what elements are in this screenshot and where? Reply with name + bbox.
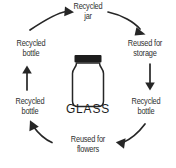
node-label-recycled-jar: Recycled jar bbox=[61, 2, 115, 21]
center-label-glass: GLASS bbox=[55, 101, 121, 116]
node-label-reused-for-flowers: Reused for flowers bbox=[59, 135, 117, 154]
node-label-recycled-bottle-right: Recycled bottle bbox=[121, 97, 171, 116]
node-label-recycled-bottle-top-left: Recycled bottle bbox=[5, 39, 57, 58]
arrow-bottom-left-icon bbox=[29, 120, 52, 142]
arrow-bottom-right-icon bbox=[116, 124, 145, 149]
node-label-recycled-bottle-left: Recycled bottle bbox=[5, 97, 55, 116]
node-label-reused-for-storage: Reused for storage bbox=[119, 39, 171, 58]
glass-recycling-diagram: Recycled jar Reused for storage Recycled… bbox=[0, 0, 176, 168]
arrow-right-icon bbox=[145, 64, 155, 91]
arrow-left-icon bbox=[22, 65, 32, 90]
